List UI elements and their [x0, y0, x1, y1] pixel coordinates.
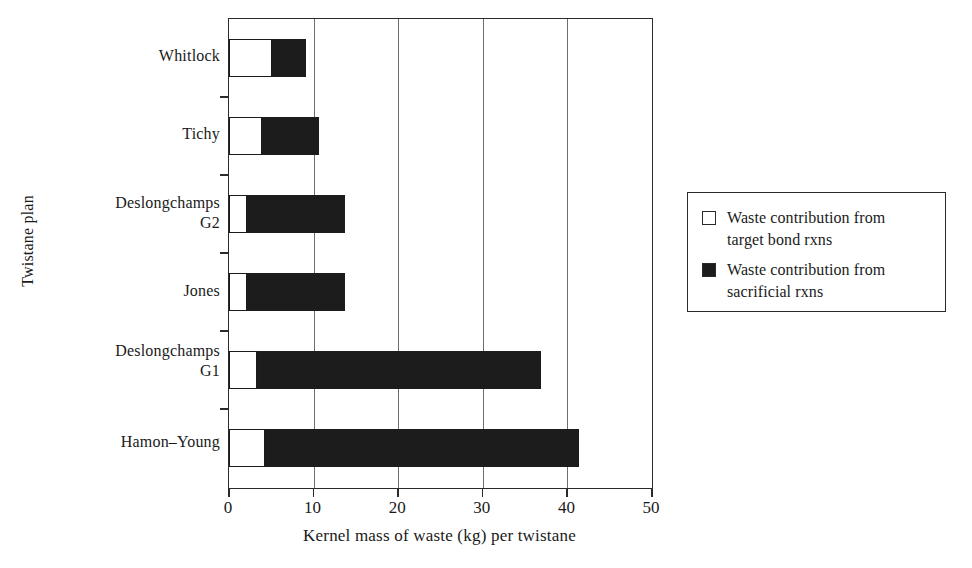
bar-segment-sacrificial [272, 39, 306, 77]
legend-label-target-bond: Waste contribution from target bond rxns [727, 207, 885, 251]
bar-segment-sacrificial [257, 351, 541, 389]
gridline-20 [398, 19, 399, 488]
y-tick-label-whitlock: Whitlock [0, 46, 220, 66]
y-tick-label-line: Whitlock [0, 46, 220, 66]
bar-segment-sacrificial [247, 195, 345, 233]
gridline-30 [483, 19, 484, 488]
x-tick-label-30: 30 [452, 498, 512, 518]
bar-segment-target-bond [229, 351, 257, 389]
legend-swatch-white-icon [702, 211, 716, 225]
bar-segment-target-bond [229, 429, 265, 467]
legend-label-line: Waste contribution from [727, 207, 885, 229]
x-tick-50 [651, 488, 653, 497]
x-tick-40 [566, 488, 568, 497]
x-tick-20 [397, 488, 399, 497]
legend-label-line: target bond rxns [727, 229, 885, 251]
x-tick-label-50: 50 [621, 498, 681, 518]
x-axis-title: Kernel mass of waste (kg) per twistane [228, 526, 651, 546]
y-tick-label-line: Deslongchamps [0, 193, 220, 213]
x-tick-label-40: 40 [536, 498, 596, 518]
gridline-40 [567, 19, 568, 488]
legend-entry-target-bond: Waste contribution from target bond rxns [702, 207, 942, 251]
x-tick-10 [313, 488, 315, 497]
x-tick-30 [482, 488, 484, 497]
y-tick-label-line: G2 [0, 213, 220, 233]
x-tick-label-20: 20 [367, 498, 427, 518]
bar-segment-sacrificial [262, 117, 319, 155]
x-tick-label-10: 10 [283, 498, 343, 518]
bar-segment-target-bond [229, 117, 262, 155]
y-tick-label-hamon-young: Hamon–Young [0, 432, 220, 452]
legend-label-sacrificial: Waste contribution from sacrificial rxns [727, 259, 885, 303]
y-tick-label-line: Tichy [0, 124, 220, 144]
y-tick-label-jones: Jones [0, 281, 220, 301]
y-tick-label-line: Hamon–Young [0, 432, 220, 452]
legend: Waste contribution from target bond rxns… [687, 192, 946, 312]
y-tick-label-line: Jones [0, 281, 220, 301]
legend-label-line: Waste contribution from [727, 259, 885, 281]
gridline-10 [314, 19, 315, 488]
plot-area [228, 18, 653, 489]
y-tick-label-line: G1 [0, 361, 220, 381]
y-tick-label-line: Deslongchamps [0, 341, 220, 361]
legend-label-line: sacrificial rxns [727, 281, 885, 303]
bar-segment-sacrificial [265, 429, 579, 467]
bar-segment-target-bond [229, 195, 247, 233]
y-tick-label-deslongchamps-g2: Deslongchamps G2 [0, 193, 220, 233]
legend-entry-sacrificial: Waste contribution from sacrificial rxns [702, 259, 942, 303]
bar-segment-sacrificial [247, 273, 345, 311]
x-tick-0 [228, 488, 230, 497]
legend-swatch-black-icon [702, 263, 716, 277]
bar-segment-target-bond [229, 39, 272, 77]
bar-chart-figure: Twistane plan Whitlock Tichy Deslongcham… [0, 0, 972, 568]
bar-segment-target-bond [229, 273, 247, 311]
y-tick-label-deslongchamps-g1: Deslongchamps G1 [0, 341, 220, 381]
y-tick-label-tichy: Tichy [0, 124, 220, 144]
x-tick-label-0: 0 [198, 498, 258, 518]
